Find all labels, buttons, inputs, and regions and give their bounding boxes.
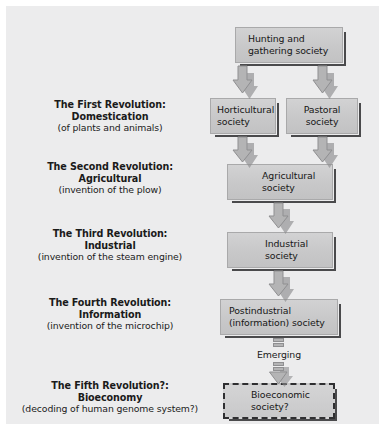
node-pastoral-society[interactable]: Pastoral society [286, 98, 358, 134]
node-bioeconomic-line2: society? [251, 401, 289, 412]
node-bioeconomic-society[interactable]: Bioeconomic society? [223, 383, 335, 419]
node-hunting-line2: gathering society [248, 45, 328, 56]
node-industrial-line2: society [265, 250, 298, 261]
revolution-second-line3: (invention of the plow) [12, 184, 208, 195]
diagram-page: The First Revolution: Domestication (of … [0, 0, 385, 437]
node-horticultural-society[interactable]: Horticultural society [210, 98, 276, 134]
node-horticultural-line2: society [217, 116, 250, 127]
node-postindustrial-society[interactable]: Postindustrial (information) society [220, 299, 338, 335]
arrow-agricultural-to-industrial [271, 203, 288, 231]
arrow-horticultural-to-agricultural [235, 137, 252, 165]
node-pastoral-line2: society [306, 116, 339, 127]
revolution-label-fourth: The Fourth Revolution: Information (inve… [12, 297, 208, 332]
node-hunting-line1: Hunting and [248, 33, 305, 44]
revolution-first-line3: (of plants and animals) [12, 122, 208, 133]
revolution-fourth-line2: Information [12, 309, 208, 321]
arrow-pastoral-to-agricultural [315, 137, 332, 165]
node-hunting-gathering-society[interactable]: Hunting and gathering society [235, 27, 343, 63]
revolution-third-line2: Industrial [12, 240, 208, 252]
node-industrial-line1: Industrial [265, 238, 308, 249]
revolution-label-third: The Third Revolution: Industrial (invent… [12, 228, 208, 263]
revolution-fifth-line2: Bioeconomy [12, 392, 208, 404]
revolution-third-line3: (invention of the steam engine) [12, 251, 208, 262]
node-bioeconomic-line1: Bioeconomic [251, 389, 310, 400]
revolution-label-fifth: The Fifth Revolution?: Bioeconomy (decod… [12, 380, 208, 415]
revolution-second-line1: The Second Revolution: [12, 161, 208, 173]
node-agricultural-line1: Agricultural [262, 170, 315, 181]
arrow-postindustrial-to-emerging-stub [273, 338, 285, 347]
diagram-canvas: The First Revolution: Domestication (of … [6, 6, 379, 424]
revolution-label-second: The Second Revolution: Agricultural (inv… [12, 161, 208, 196]
node-pastoral-line1: Pastoral [304, 104, 341, 115]
revolution-first-line1: The First Revolution: [12, 99, 208, 111]
node-industrial-society[interactable]: Industrial society [227, 232, 333, 268]
arrow-hunting-to-horticultural [235, 66, 252, 96]
emerging-label: Emerging [227, 349, 331, 360]
node-postindustrial-line2: (information) society [229, 317, 325, 328]
arrow-hunting-to-pastoral [315, 66, 332, 96]
node-agricultural-line2: society [262, 182, 295, 193]
revolution-first-line2: Domestication [12, 111, 208, 123]
revolution-fourth-line3: (invention of the microchip) [12, 320, 208, 331]
revolution-label-first: The First Revolution: Domestication (of … [12, 99, 208, 134]
revolution-fifth-line3: (decoding of human genome system?) [12, 403, 208, 414]
revolution-third-line1: The Third Revolution: [12, 228, 208, 240]
node-postindustrial-line1: Postindustrial [229, 305, 291, 316]
revolution-fifth-line1: The Fifth Revolution?: [12, 380, 208, 392]
revolution-second-line2: Agricultural [12, 173, 208, 185]
arrow-industrial-to-postindustrial [271, 271, 288, 299]
arrow-emerging-to-bioeconomic [271, 362, 288, 384]
node-agricultural-society[interactable]: Agricultural society [227, 164, 333, 200]
node-horticultural-line1: Horticultural [217, 104, 274, 115]
revolution-fourth-line1: The Fourth Revolution: [12, 297, 208, 309]
